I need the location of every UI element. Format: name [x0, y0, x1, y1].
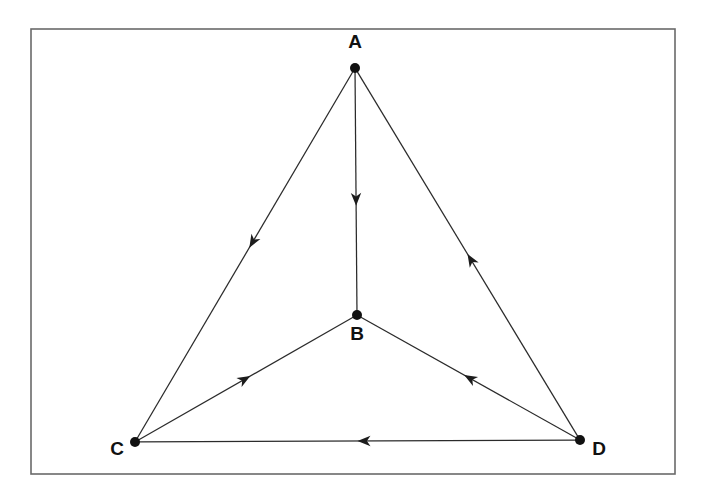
graph-node-a	[350, 63, 360, 73]
edges-layer	[137, 71, 578, 442]
node-label-d: D	[592, 438, 606, 459]
edge-arrowhead	[464, 375, 478, 386]
node-label-a: A	[348, 31, 362, 52]
nodes-layer	[130, 63, 585, 447]
graph-edge	[137, 71, 353, 438]
edge-arrowhead	[236, 376, 250, 387]
node-labels-layer: ABCD	[110, 31, 606, 459]
edge-arrowhead	[468, 254, 479, 268]
graph-node-c	[130, 437, 140, 447]
node-label-c: C	[110, 438, 124, 459]
graph-node-d	[575, 435, 585, 445]
diagram-border-frame	[31, 29, 675, 474]
edge-arrowhead	[249, 234, 260, 248]
graph-node-b	[352, 310, 362, 320]
diagram-canvas: ABCD	[0, 0, 706, 500]
directed-graph-svg: ABCD	[0, 0, 706, 500]
node-label-b: B	[350, 323, 364, 344]
graph-edge	[355, 72, 357, 311]
